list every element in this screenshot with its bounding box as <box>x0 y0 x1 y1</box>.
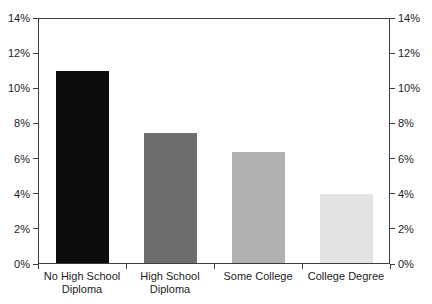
y-axis-label-left: 14% <box>0 11 30 25</box>
y-tick-right <box>390 88 395 89</box>
y-tick-right <box>390 123 395 124</box>
x-tick <box>38 264 39 269</box>
y-axis-label-left: 10% <box>0 81 30 95</box>
x-tick <box>302 264 303 269</box>
x-tick <box>390 264 391 269</box>
x-tick <box>126 264 127 269</box>
y-tick-right <box>390 264 395 265</box>
y-axis-label-right: 2% <box>398 222 432 236</box>
y-axis-label-right: 6% <box>398 152 432 166</box>
bar <box>232 152 285 263</box>
x-axis-category-label: College Degree <box>298 270 394 283</box>
bar-chart: 0%0%2%2%4%4%6%6%8%8%10%10%12%12%14%14%No… <box>0 0 432 304</box>
y-tick-left <box>33 158 38 159</box>
bar <box>56 71 109 263</box>
plot-area <box>38 18 390 264</box>
y-axis-label-left: 6% <box>0 152 30 166</box>
y-axis-label-right: 10% <box>398 81 432 95</box>
y-axis-label-right: 0% <box>398 257 432 271</box>
y-tick-left <box>33 123 38 124</box>
y-tick-left <box>33 53 38 54</box>
x-axis-category-label: No High School Diploma <box>34 270 130 296</box>
y-tick-right <box>390 193 395 194</box>
y-tick-left <box>33 193 38 194</box>
y-axis-label-left: 0% <box>0 257 30 271</box>
y-tick-right <box>390 53 395 54</box>
bar <box>320 194 373 263</box>
y-axis-label-left: 4% <box>0 187 30 201</box>
y-tick-right <box>390 228 395 229</box>
y-axis-label-right: 8% <box>398 116 432 130</box>
x-axis-category-label: Some College <box>210 270 306 283</box>
y-axis-label-left: 2% <box>0 222 30 236</box>
bar <box>144 133 197 263</box>
y-axis-label-left: 8% <box>0 116 30 130</box>
y-tick-left <box>33 18 38 19</box>
y-tick-left <box>33 88 38 89</box>
y-axis-label-right: 12% <box>398 46 432 60</box>
y-axis-label-right: 14% <box>398 11 432 25</box>
x-axis-category-label: High School Diploma <box>122 270 218 296</box>
y-axis-label-right: 4% <box>398 187 432 201</box>
y-axis-label-left: 12% <box>0 46 30 60</box>
y-tick-right <box>390 158 395 159</box>
y-tick-left <box>33 228 38 229</box>
x-tick <box>214 264 215 269</box>
y-tick-right <box>390 18 395 19</box>
